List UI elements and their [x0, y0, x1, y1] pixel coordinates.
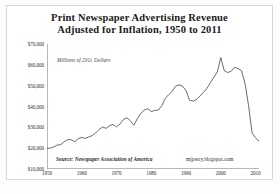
y-axis-labels: $70,000$60,000$50,000$40,000$30,000$20,0… — [0, 0, 44, 194]
chart-title: Print Newspaper Advertising Revenue Adju… — [6, 12, 273, 36]
x-tick-label: 2000 — [216, 170, 226, 176]
title-line-2: Adjusted for Inflation, 1950 to 2011 — [6, 24, 273, 36]
y-tick-label: $40,000 — [28, 104, 44, 110]
y-tick-label: $60,000 — [28, 62, 44, 68]
revenue-line-chart — [47, 44, 259, 169]
y-tick-label: $70,000 — [28, 41, 44, 47]
y-tick-label: $30,000 — [28, 124, 44, 130]
y-tick-label: $50,000 — [28, 83, 44, 89]
title-line-1: Print Newspaper Advertising Revenue — [6, 12, 273, 24]
x-tick-label: 1980 — [146, 170, 156, 176]
x-tick-label: 1960 — [77, 170, 87, 176]
y-tick-label: $20,000 — [28, 145, 44, 151]
plot-area — [47, 44, 259, 169]
data-series-line — [47, 58, 259, 149]
x-tick-label: 1950 — [42, 170, 52, 176]
source-note: Source: Newspaper Association of America — [56, 156, 152, 162]
chart-figure: Print Newspaper Advertising Revenue Adju… — [0, 0, 280, 194]
x-tick-label: 1970 — [112, 170, 122, 176]
x-tick-label: 1990 — [181, 170, 191, 176]
x-tick-label: 2010 — [251, 170, 261, 176]
axis-lines — [48, 44, 260, 169]
credit-note: mjperry.blogspot.com — [186, 156, 233, 162]
